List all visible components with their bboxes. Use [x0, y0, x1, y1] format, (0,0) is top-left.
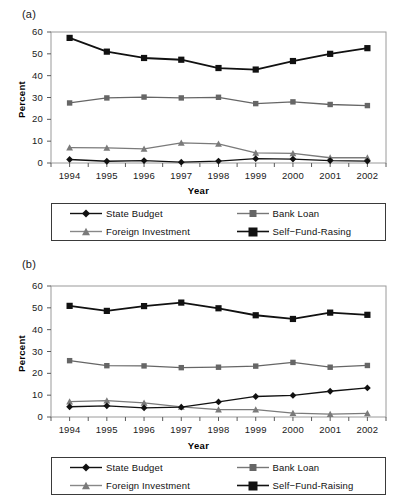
series-self-fund-rasing: [67, 35, 371, 73]
data-point-marker: [104, 363, 109, 368]
x-axis-tick-label: 1995: [90, 170, 124, 181]
data-point-marker: [141, 363, 146, 368]
legend-label: Self−Fund-Raising: [273, 480, 354, 491]
legend-item-state-budget[interactable]: State Budget: [52, 462, 219, 473]
x-axis-tick-label: 1998: [202, 170, 236, 181]
data-point-marker: [327, 388, 334, 395]
data-point-marker: [290, 156, 297, 163]
x-axis-tick-label: 1998: [202, 424, 236, 435]
square-marker-icon: [237, 208, 269, 219]
chart-canvas: [0, 250, 397, 430]
data-point-marker: [216, 95, 221, 100]
legend-item-self-fund-raising[interactable]: Self−Fund-Raising: [219, 480, 386, 491]
x-axis-tick-label: 1997: [164, 424, 198, 435]
data-point-marker: [365, 363, 370, 368]
series-line: [70, 38, 368, 70]
panel-b: (b) Percent Year State Budget Bank Loan: [0, 250, 397, 502]
panel-b-plot: [0, 250, 397, 430]
chart-canvas: [0, 0, 397, 175]
panel-b-legend: State Budget Bank Loan Foreign Investmen…: [51, 457, 386, 495]
legend-label: Bank Loan: [273, 462, 320, 473]
legend-label: State Budget: [106, 462, 163, 473]
filled-square-marker-icon: [237, 226, 269, 237]
x-axis-tick-label: 2001: [313, 170, 347, 181]
y-axis-tick-label: 0: [21, 157, 43, 168]
data-point-marker: [290, 316, 296, 322]
data-point-marker: [327, 102, 332, 107]
data-point-marker: [178, 57, 184, 63]
data-point-marker: [364, 385, 371, 392]
legend-item-foreign-investment[interactable]: Foreign Investment: [52, 226, 219, 237]
x-axis-tick-label: 1994: [53, 424, 87, 435]
filled-square-marker-icon: [237, 480, 269, 491]
x-axis-tick-label: 1997: [164, 170, 198, 181]
data-point-marker: [179, 95, 184, 100]
data-point-marker: [141, 303, 147, 309]
data-point-marker: [365, 103, 370, 108]
data-point-marker: [253, 66, 259, 72]
data-point-marker: [215, 305, 221, 311]
y-axis-tick-label: 60: [21, 280, 43, 291]
x-axis-tick-label: 2002: [350, 424, 384, 435]
panel-a-x-axis-label: Year: [0, 185, 397, 196]
y-axis-tick-label: 40: [21, 324, 43, 335]
data-point-marker: [327, 310, 333, 316]
series-self-fund-raising: [67, 299, 371, 322]
series-bank-loan: [67, 94, 370, 108]
panel-b-x-axis-label: Year: [0, 440, 397, 451]
y-axis-tick-label: 40: [21, 70, 43, 81]
data-point-marker: [290, 360, 295, 365]
data-point-marker: [253, 363, 258, 368]
y-axis-tick-label: 20: [21, 113, 43, 124]
data-point-marker: [178, 299, 184, 305]
series-foreign-investment: [66, 140, 371, 161]
panel-a-legend: State Budget Bank Loan Foreign Investmen…: [51, 203, 386, 241]
x-axis-tick-label: 2001: [313, 424, 347, 435]
x-axis-tick-label: 1996: [127, 424, 161, 435]
data-point-marker: [104, 95, 109, 100]
data-point-marker: [141, 55, 147, 61]
x-axis-tick-label: 1999: [239, 424, 273, 435]
legend-item-self-fund-rasing[interactable]: Self−Fund-Rasing: [219, 226, 386, 237]
data-point-marker: [67, 35, 73, 41]
x-axis-tick-label: 2000: [276, 170, 310, 181]
data-point-marker: [104, 308, 110, 314]
data-point-marker: [179, 365, 184, 370]
panel-a: (a) Percent Year State Budget Bank Loan: [0, 0, 397, 250]
diamond-marker-icon: [70, 462, 102, 473]
legend-label: State Budget: [106, 208, 163, 219]
series-bank-loan: [67, 358, 370, 370]
y-axis-tick-label: 50: [21, 302, 43, 313]
data-point-marker: [252, 393, 259, 400]
data-point-marker: [252, 155, 259, 162]
legend-item-bank-loan[interactable]: Bank Loan: [219, 462, 386, 473]
data-point-marker: [104, 49, 110, 55]
data-point-marker: [290, 58, 296, 64]
data-point-marker: [364, 45, 370, 51]
x-axis-tick-label: 1995: [90, 424, 124, 435]
y-axis-tick-label: 10: [21, 135, 43, 146]
legend-label: Foreign Investment: [106, 226, 190, 237]
triangle-marker-icon: [70, 480, 102, 491]
legend-item-foreign-investment[interactable]: Foreign Investment: [52, 480, 219, 491]
legend-item-bank-loan[interactable]: Bank Loan: [219, 208, 386, 219]
data-point-marker: [178, 159, 185, 166]
x-axis-tick-label: 2000: [276, 424, 310, 435]
y-axis-tick-label: 20: [21, 367, 43, 378]
legend-label: Foreign Investment: [106, 480, 190, 491]
x-axis-tick-label: 1994: [53, 170, 87, 181]
data-point-marker: [327, 51, 333, 57]
legend-label: Bank Loan: [273, 208, 320, 219]
y-axis-tick-label: 50: [21, 48, 43, 59]
data-point-marker: [290, 392, 297, 399]
data-point-marker: [253, 101, 258, 106]
legend-item-state-budget[interactable]: State Budget: [52, 208, 219, 219]
y-axis-tick-label: 30: [21, 346, 43, 357]
square-marker-icon: [237, 462, 269, 473]
data-point-marker: [67, 358, 72, 363]
data-point-marker: [327, 365, 332, 370]
data-point-marker: [141, 94, 146, 99]
data-point-marker: [364, 312, 370, 318]
panel-a-plot: [0, 0, 397, 175]
x-axis-tick-label: 1996: [127, 170, 161, 181]
